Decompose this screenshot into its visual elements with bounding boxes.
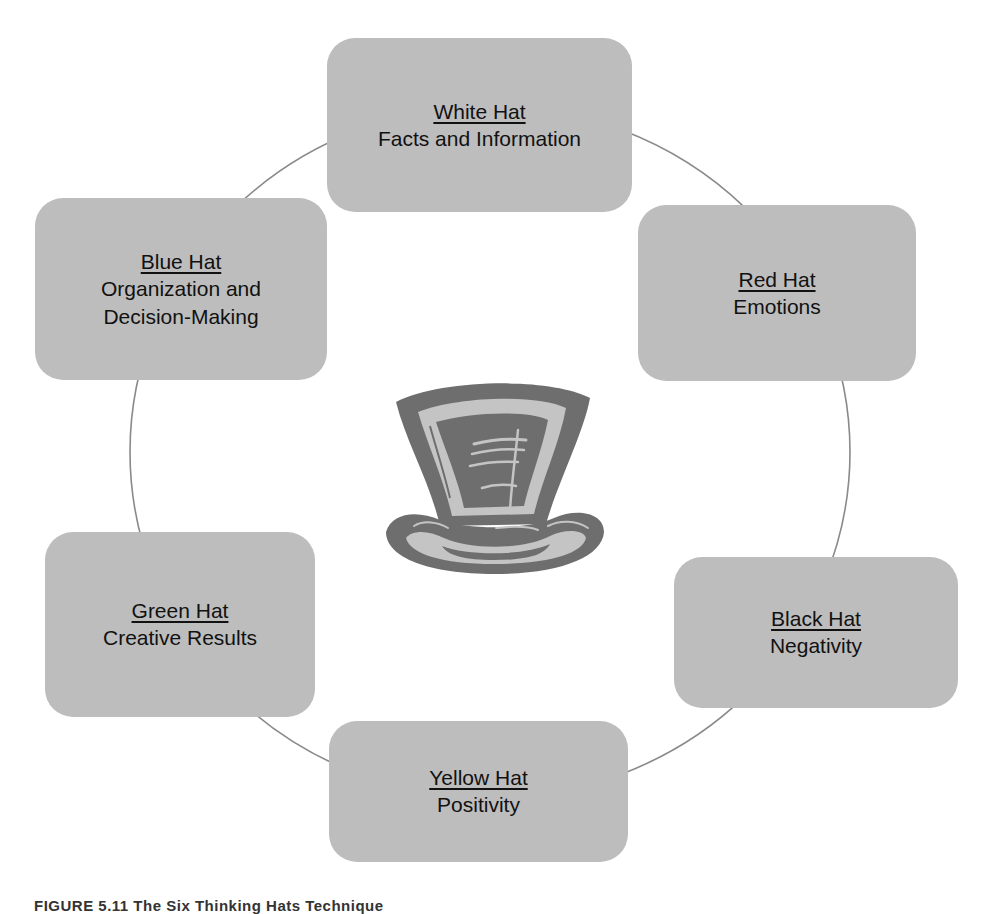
hat-description: Negativity (770, 632, 862, 660)
hat-title: Red Hat (738, 266, 815, 293)
hat-title: Blue Hat (141, 248, 222, 275)
hat-node-yellow: Yellow Hat Positivity (329, 721, 628, 862)
hat-description: Positivity (437, 791, 520, 819)
hat-description: Facts and Information (378, 125, 581, 153)
hat-node-red: Red Hat Emotions (638, 205, 916, 381)
hat-title: White Hat (433, 98, 525, 125)
hat-node-blue: Blue Hat Organization and Decision-Makin… (35, 198, 327, 380)
hat-node-white: White Hat Facts and Information (327, 38, 632, 212)
hat-description: Emotions (733, 293, 821, 321)
hat-description: Creative Results (103, 624, 257, 652)
figure-caption: FIGURE 5.11 The Six Thinking Hats Techni… (34, 897, 384, 914)
hat-title: Black Hat (771, 605, 861, 632)
hat-node-green: Green Hat Creative Results (45, 532, 315, 717)
hat-description: Organization and Decision-Making (101, 275, 261, 331)
hat-title: Yellow Hat (429, 764, 527, 791)
hat-title: Green Hat (132, 597, 229, 624)
top-hat-icon (378, 362, 610, 582)
hat-node-black: Black Hat Negativity (674, 557, 958, 708)
